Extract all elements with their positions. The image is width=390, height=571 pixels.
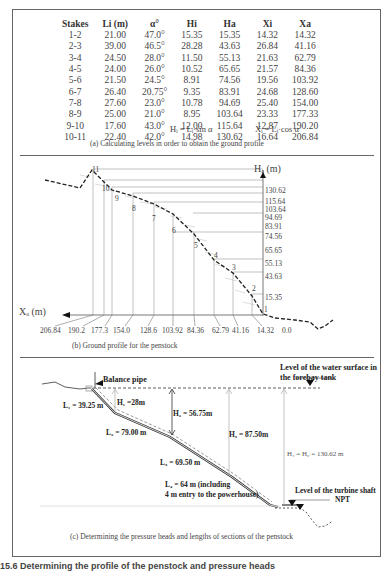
- water-level-label-1: Level of the water surface in: [280, 363, 377, 372]
- l4-label-2: 4 m entry to the powerhouse): [165, 490, 259, 499]
- npt-label: NPT: [335, 495, 350, 504]
- turbine-level-label: Level of the turbine shaft: [295, 486, 376, 495]
- figure-caption-text: 15.6 Determining the profile of the pens…: [0, 561, 275, 571]
- h1-label: H₁ =28m: [117, 398, 145, 407]
- water-level-label-2: the forebay tank: [280, 373, 336, 382]
- h3-label: H₃ = 87.50m: [229, 430, 268, 439]
- h4-label: H₄ = H₀ = 130.62 m: [287, 450, 343, 458]
- l3-label: L₃ = 69.50 m: [160, 458, 200, 467]
- h2-label: H₂ = 56.75m: [173, 409, 212, 418]
- l2-label: L₂ = 79.00 m: [106, 428, 146, 437]
- l1-label: L₁ = 39.25 m: [63, 401, 103, 410]
- figure-caption: 15.6 Determining the profile of the pens…: [0, 561, 275, 571]
- l4-label-1: L₄ = 64 m (including: [165, 480, 230, 489]
- caption-c: (c) Determining the pressure heads and l…: [70, 532, 293, 541]
- balance-pipe-label: Balance pipe: [103, 375, 147, 384]
